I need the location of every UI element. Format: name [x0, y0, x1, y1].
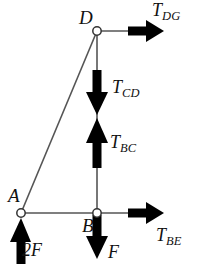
node-label-B: B — [82, 216, 94, 235]
force-label-T-CD: TCD — [112, 78, 140, 96]
node-marker-D — [93, 27, 101, 35]
force-subscript-T-CD: CD — [122, 86, 140, 100]
node-marker-A — [17, 209, 25, 217]
force-arrow-T-CD — [86, 70, 108, 115]
force-label-2F: 2F — [22, 241, 42, 259]
force-symbol-T-BC: T — [110, 132, 120, 152]
force-arrow-T-DG — [128, 20, 164, 42]
force-subscript-T-BC: BC — [120, 141, 136, 155]
force-symbol-T-CD: T — [112, 77, 122, 97]
force-arrow-T-BE — [128, 202, 164, 224]
force-symbol-T-DG: T — [152, 0, 162, 20]
force-label-F: F — [108, 243, 119, 261]
free-body-diagram: D A B TDG TCD TBC TBE 2F F — [0, 0, 209, 267]
force-leader-lines — [97, 31, 130, 213]
node-label-D: D — [79, 8, 93, 27]
force-symbol-T-BE: T — [156, 225, 166, 245]
force-label-T-DG: TDG — [152, 1, 180, 19]
node-label-A: A — [8, 186, 20, 205]
force-subscript-T-DG: DG — [162, 9, 180, 23]
node-marker-B — [93, 209, 101, 217]
force-label-T-BC: TBC — [110, 133, 136, 151]
force-label-T-BE: TBE — [156, 226, 182, 244]
force-arrow-T-BC — [86, 118, 108, 168]
force-subscript-T-BE: BE — [166, 234, 182, 248]
truss-members — [21, 31, 97, 213]
member-AD — [21, 31, 97, 213]
